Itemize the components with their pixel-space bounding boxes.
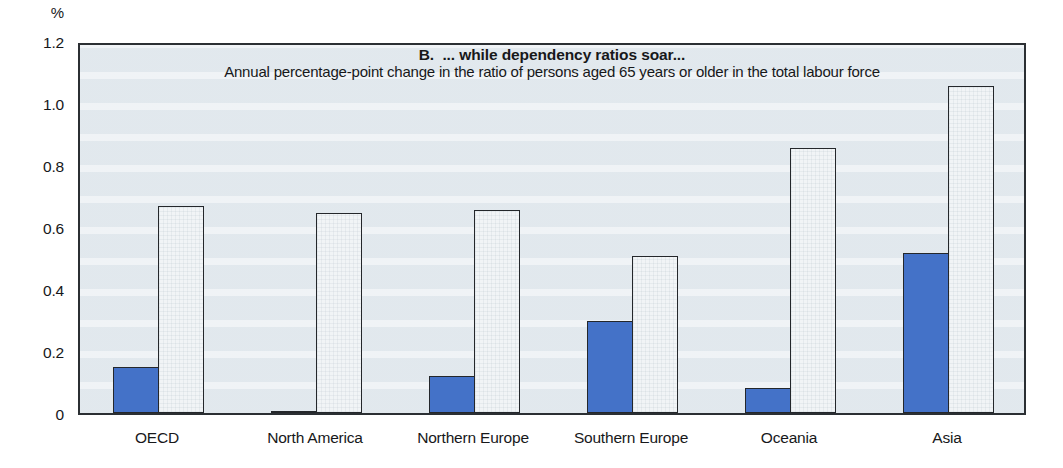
bar-dark	[745, 388, 791, 413]
y-axis-tick-label: 0.2	[0, 344, 64, 362]
bar-light	[948, 86, 994, 413]
bar-light	[158, 206, 204, 413]
bar-light	[632, 256, 678, 413]
bar-group-asia	[903, 86, 994, 413]
bar-dark	[587, 321, 633, 414]
bars-layer	[80, 45, 1024, 413]
bar-dark	[429, 376, 475, 413]
figure-panel-b: % 00.20.40.60.81.01.2 B. ... while depen…	[0, 0, 1063, 468]
bar-dark	[271, 411, 317, 413]
bar-group-oecd	[113, 206, 204, 413]
x-axis-label-oceania: Oceania	[704, 429, 874, 447]
bar-group-north-america	[271, 213, 362, 413]
plot-area: B. ... while dependency ratios soar... A…	[78, 43, 1026, 415]
x-axis-label-north-america: North America	[230, 429, 400, 447]
y-axis-tick-label: 0.8	[0, 158, 64, 176]
bar-light	[474, 210, 520, 414]
x-axis-label-asia: Asia	[862, 429, 1032, 447]
y-axis-tick-label: 0.4	[0, 282, 64, 300]
bar-group-southern-europe	[587, 256, 678, 413]
y-axis-tick-label: 1.2	[0, 34, 64, 52]
y-axis-tick-label: 1.0	[0, 96, 64, 114]
bar-dark	[903, 253, 949, 413]
y-axis-tick-label: 0	[0, 406, 64, 424]
x-axis-label-southern-europe: Southern Europe	[546, 429, 716, 447]
y-axis-tick-label: 0.6	[0, 220, 64, 238]
bar-group-oceania	[745, 148, 836, 413]
bar-light	[790, 148, 836, 413]
bar-light	[316, 213, 362, 413]
bar-group-northern-europe	[429, 210, 520, 414]
x-axis-label-oecd: OECD	[72, 429, 242, 447]
bar-dark	[113, 367, 159, 413]
y-axis-unit-label: %	[0, 4, 64, 21]
x-axis-label-northern-europe: Northern Europe	[388, 429, 558, 447]
